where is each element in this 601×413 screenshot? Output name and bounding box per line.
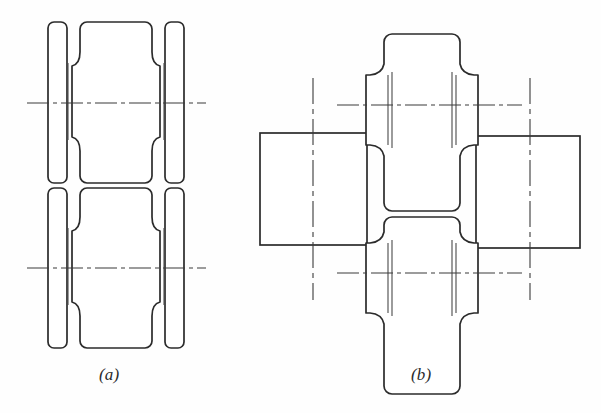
upper-roll-b-barrel [366, 34, 478, 211]
upper-roll-b [366, 34, 478, 211]
right-workpiece [476, 136, 580, 248]
view-a-group [27, 22, 206, 348]
subfigure-label-b: (b) [411, 365, 431, 385]
view-b-group [260, 34, 580, 394]
technical-drawing-svg: .outline{fill:#ffffff;stroke:#2b2b2b;str… [0, 0, 601, 413]
figure-canvas: .outline{fill:#ffffff;stroke:#2b2b2b;str… [0, 0, 601, 413]
left-workpiece [260, 133, 367, 245]
subfigure-label-a: (a) [99, 365, 119, 385]
